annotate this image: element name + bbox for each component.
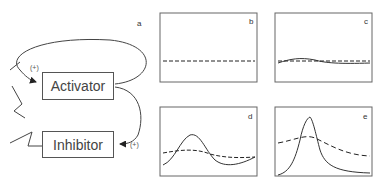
activation-sign: (+) (130, 141, 139, 148)
inhibitor-node: Inhibitor (42, 131, 114, 158)
self-activation-sign: (+) (30, 64, 39, 71)
activator-node: Activator (42, 72, 114, 100)
panel-label-e: e (363, 112, 367, 121)
panel-label-d: d (248, 112, 252, 121)
panel-label-c: c (364, 17, 368, 26)
panel-label-b: b (249, 17, 253, 26)
activation-arrow (115, 87, 141, 144)
panel-label-a: a (137, 19, 141, 28)
